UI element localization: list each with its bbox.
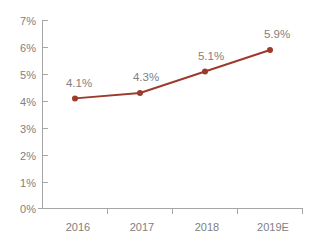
data-point-2017[interactable] xyxy=(137,90,143,96)
y-axis-tick-labels: 7% 6% 5% 4% 3% 2% 1% 0% xyxy=(20,15,36,215)
data-point-2018[interactable] xyxy=(202,69,208,75)
series-line-path xyxy=(75,50,270,98)
y-tick-label: 7% xyxy=(20,15,36,27)
data-label-2016: 4.1% xyxy=(66,77,92,89)
y-tick-label: 1% xyxy=(20,177,36,189)
y-tick-label: 2% xyxy=(20,150,36,162)
chart-canvas: 7% 6% 5% 4% 3% 2% 1% 0% 2016 2017 2018 2… xyxy=(0,0,322,250)
x-tick-label-2019e: 2019E xyxy=(257,221,289,233)
x-axis-tick-labels: 2016 2017 2018 2019E xyxy=(66,221,289,233)
y-tick-label: 6% xyxy=(20,42,36,54)
x-tick-label-2017: 2017 xyxy=(130,221,154,233)
y-tick-label: 3% xyxy=(20,123,36,135)
line-chart: 7% 6% 5% 4% 3% 2% 1% 0% 2016 2017 2018 2… xyxy=(0,0,322,250)
data-label-2017: 4.3% xyxy=(133,71,159,83)
y-tick-label: 0% xyxy=(20,203,36,215)
x-tick-label-2018: 2018 xyxy=(195,221,219,233)
data-label-2019e: 5.9% xyxy=(264,28,290,40)
y-tick-label: 4% xyxy=(20,96,36,108)
series-markers xyxy=(72,47,273,101)
x-tick-label-2016: 2016 xyxy=(66,221,90,233)
data-label-2018: 5.1% xyxy=(198,50,224,62)
data-point-2016[interactable] xyxy=(72,95,78,101)
data-point-2019e[interactable] xyxy=(267,47,273,53)
y-tick-label: 5% xyxy=(20,69,36,81)
x-axis-ticks xyxy=(108,209,303,214)
